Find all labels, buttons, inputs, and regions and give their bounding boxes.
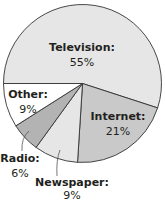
pct-radio: 6%: [11, 167, 28, 180]
pct-internet: 21%: [106, 125, 130, 138]
pct-newspaper: 9%: [63, 189, 80, 201]
pie-chart: Television: 55% Internet: 21% Newspaper:…: [0, 0, 165, 201]
label-newspaper: Newspaper:: [35, 176, 109, 189]
label-radio: Radio:: [0, 152, 40, 165]
pct-television: 55%: [70, 56, 94, 69]
label-television: Television:: [49, 41, 115, 54]
pct-other: 9%: [19, 103, 36, 116]
label-other: Other:: [8, 88, 48, 101]
label-internet: Internet:: [90, 110, 145, 123]
